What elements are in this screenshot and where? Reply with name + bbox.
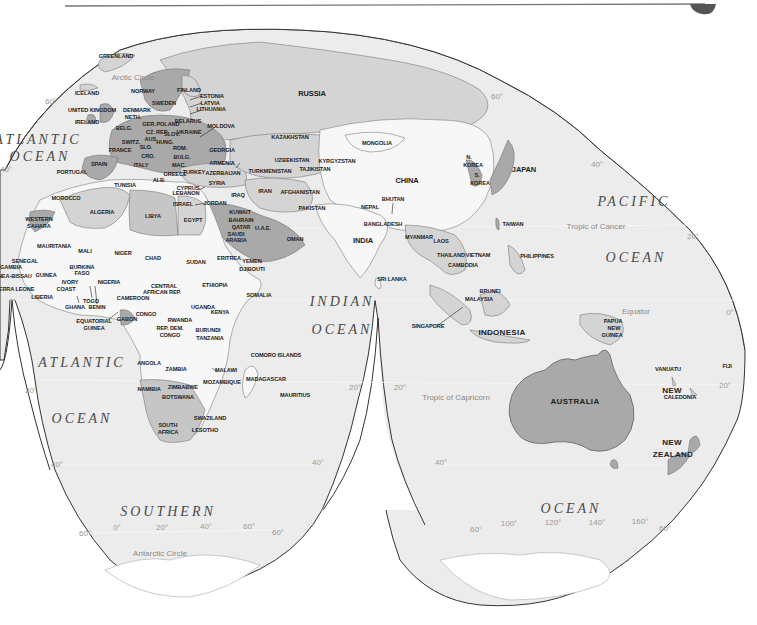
- ocean-label-ocean: OCEAN: [52, 412, 113, 426]
- country-label-vanuatu: VANUATU: [655, 367, 681, 373]
- country-label-laos: LAOS: [433, 239, 448, 245]
- country-label-georgia: GEORGIA: [209, 148, 235, 154]
- country-label-liberia: LIBERIA: [31, 295, 53, 301]
- country-label-kazakhstan: KAZAKHSTAN: [271, 135, 308, 141]
- country-label-cro: CRO.: [141, 154, 155, 160]
- country-label-japan: JAPAN: [512, 166, 536, 174]
- country-label-faso: FASO: [75, 271, 90, 277]
- country-label-australia: AUSTRALIA: [551, 398, 600, 406]
- country-label-gabon: GABON: [117, 317, 137, 323]
- country-label-swaziland: SWAZILAND: [194, 416, 226, 422]
- country-label-jordan: JORDAN: [203, 201, 226, 207]
- country-label-syria: SYRIA: [209, 181, 226, 187]
- country-label-u-a-e: U.A.E.: [255, 226, 271, 232]
- graticule-label-40: 40°: [200, 523, 212, 531]
- country-label-ivory: IVORY: [62, 280, 79, 286]
- country-label-nepal: NEPAL: [361, 205, 379, 211]
- ocean-label-atlantic: ATLANTIC: [38, 356, 125, 370]
- country-label-iraq: IRAQ: [231, 193, 245, 199]
- country-label-ger: GER.: [142, 122, 155, 128]
- country-label-rom: ROM.: [173, 146, 187, 152]
- latitude-circle-label-tropic-of-capricorn: Tropic of Capricorn: [422, 394, 490, 402]
- country-label-tajikistan: TAJIKISTAN: [299, 167, 330, 173]
- country-label-angola: ANGOLA: [137, 361, 161, 367]
- graticule-label-40: 40°: [312, 459, 324, 467]
- ocean-label-southern: SOUTHERN: [120, 505, 216, 519]
- country-label-vietnam: VIETNAM: [466, 253, 490, 259]
- country-label-belg: BELG.: [116, 126, 133, 132]
- country-label-ukraine: UKRAINE: [177, 130, 202, 136]
- country-label-taiwan: TAIWAN: [502, 222, 523, 228]
- country-label-slo: SLO.: [140, 145, 153, 151]
- country-label-yemen: YEMEN: [242, 259, 261, 265]
- graticule-label-40: 40°: [0, 166, 12, 174]
- graticule-label-20: 20°: [156, 524, 168, 532]
- country-label-united-kingdom: UNITED KINGDOM: [68, 108, 116, 114]
- country-label-algeria: ALGERIA: [90, 210, 114, 216]
- country-label-india: INDIA: [353, 237, 373, 245]
- country-label-portugal: PORTUGAL: [57, 170, 88, 176]
- graticule-label-60: 60°: [243, 523, 255, 531]
- country-label-tanzania: TANZANIA: [196, 336, 223, 342]
- country-label-kyrgyzstan: KYRGYZSTAN: [318, 159, 355, 165]
- graticule-label-60: 60°: [272, 529, 284, 537]
- ocean-label-ocean: OCEAN: [541, 502, 602, 516]
- country-label-egypt: EGYPT: [184, 218, 202, 224]
- graticule-label-140: 140°: [589, 519, 606, 527]
- country-label-bulg: BULG.: [174, 155, 191, 161]
- country-label-mauritius: MAURITIUS: [280, 393, 310, 399]
- graticule-label-60: 60°: [659, 525, 671, 533]
- country-label-burundi: BURUNDI: [195, 328, 220, 334]
- country-label-israel: ISRAEL: [173, 202, 193, 208]
- country-label-malawi: MALAWI: [215, 368, 237, 374]
- country-label-mauritania: MAURITANIA: [37, 244, 71, 250]
- graticule-label-60: 60°: [470, 526, 482, 534]
- country-label-alb: ALB.: [153, 178, 166, 184]
- country-label-caledonia: CALEDONIA: [664, 395, 696, 401]
- ocean-label-atlantic: ATLANTIC: [0, 133, 82, 147]
- country-label-spain: SPAIN: [91, 162, 107, 168]
- country-label-tunisia: TUNISIA: [114, 183, 136, 189]
- country-label-bhutan: BHUTAN: [382, 197, 405, 203]
- country-label-switz: SWITZ.: [122, 140, 140, 146]
- country-label-new: NEW: [662, 439, 682, 447]
- country-label-libya: LIBYA: [145, 214, 161, 220]
- country-label-sierra-leone: SIERRA LEONE: [0, 287, 34, 293]
- country-label-indonesia: INDONESIA: [478, 329, 525, 337]
- country-label-uzbekistan: UZBEKISTAN: [275, 158, 310, 164]
- graticule-label-40: 40°: [591, 161, 603, 169]
- country-label-qatar: QATAR: [232, 225, 251, 231]
- country-label-mali: MALI: [78, 249, 91, 255]
- country-label-mac: MAC.: [172, 163, 186, 169]
- country-label-france: FRANCE: [109, 148, 132, 154]
- latitude-circle-label-tropic-of-cancer: Tropic of Cancer: [567, 223, 626, 231]
- country-label-ghana: GHANA: [65, 305, 85, 311]
- country-label-zealand: ZEALAND: [653, 451, 693, 459]
- country-label-iceland: ICELAND: [75, 91, 99, 97]
- country-label-sudan: SUDAN: [186, 260, 205, 266]
- country-label-n: N.: [466, 155, 471, 161]
- country-label-thailand: THAILAND: [437, 253, 465, 259]
- country-label-new: NEW: [608, 326, 621, 332]
- country-label-kenya: KENYA: [211, 310, 230, 316]
- country-label-guinea: GUINEA: [601, 333, 622, 339]
- country-label-cameroon: CAMEROON: [117, 296, 149, 302]
- ocean-label-ocean: OCEAN: [312, 323, 373, 337]
- country-label-lebanon: LEBANON: [173, 191, 200, 197]
- country-label-ethiopia: ETHIOPIA: [202, 283, 228, 289]
- country-label-lesotho: LESOTHO: [192, 428, 218, 434]
- country-label-armenia: ARMENIA: [209, 161, 234, 167]
- country-label-afghanistan: AFGHANISTAN: [280, 190, 319, 196]
- country-label-western: WESTERN: [25, 217, 52, 223]
- country-label-niger: NIGER: [114, 251, 131, 257]
- graticule-label-100: 100°: [501, 520, 518, 528]
- country-label-bahrain: BAHRAIN: [228, 218, 253, 224]
- ocean-label-pacific: PACIFIC: [598, 195, 671, 209]
- country-label-congo: CONGO: [136, 312, 157, 318]
- country-label-benin: BENIN: [89, 305, 106, 311]
- country-label-sri-lanka: SRI LANKA: [377, 277, 407, 283]
- country-label-finland: FINLAND: [177, 88, 201, 94]
- country-label-gambia: GAMBIA: [0, 265, 22, 271]
- graticule-label-60: 60°: [491, 93, 503, 101]
- country-label-rwanda: RWANDA: [168, 318, 192, 324]
